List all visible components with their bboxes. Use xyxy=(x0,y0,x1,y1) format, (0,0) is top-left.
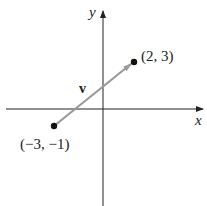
y-axis-label: y xyxy=(89,5,96,20)
tail-point xyxy=(51,123,57,129)
tail-point-label: (−3, −1) xyxy=(20,137,69,152)
coordinate-plane xyxy=(0,0,207,206)
vector-label: v xyxy=(79,82,86,96)
vector-v-arrow xyxy=(54,64,131,126)
x-axis-label: x xyxy=(195,113,202,128)
head-point xyxy=(131,59,137,65)
head-point-label: (2, 3) xyxy=(141,49,174,64)
